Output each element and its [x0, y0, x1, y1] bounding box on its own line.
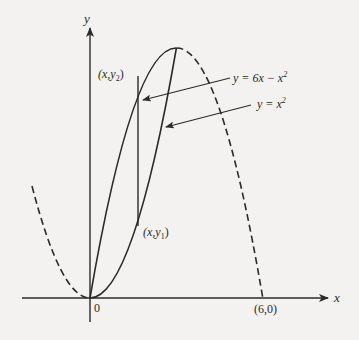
- origin-label: 0: [94, 301, 100, 315]
- lower-point-label: (x,y1): [143, 225, 169, 241]
- lower-curve-equation: y = x2: [256, 96, 286, 111]
- y-axis-label: y: [82, 11, 90, 26]
- upper-curve-pointer: [143, 78, 230, 100]
- lower-curve-solid: [90, 48, 176, 298]
- function-graph: x y 0 (6,0) (x,y2) (x,y1) y = 6x − x2 y …: [0, 0, 359, 340]
- lower-curve-dashed: [32, 186, 90, 298]
- x-axis-label: x: [333, 290, 340, 305]
- upper-curve-equation: y = 6x − x2: [232, 70, 287, 85]
- upper-point-label: (x,y2): [98, 67, 124, 83]
- x-intercept-label: (6,0): [254, 302, 277, 316]
- upper-curve-solid: [90, 48, 176, 298]
- upper-curve-dashed: [176, 48, 262, 298]
- lower-curve-pointer: [166, 105, 251, 127]
